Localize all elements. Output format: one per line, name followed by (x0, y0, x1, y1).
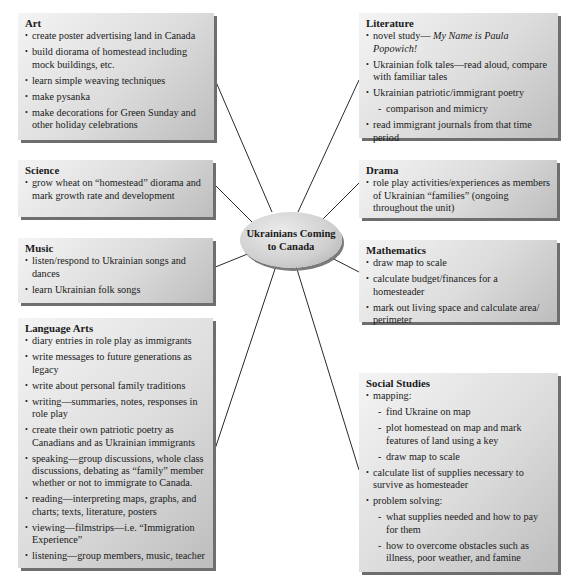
drama-title: Drama (366, 164, 551, 176)
list-item: viewing—filmstrips—i.e. “Immigration Exp… (25, 522, 207, 547)
list-item: mapping: (366, 390, 552, 402)
list-item: Ukrainian folk tales—read aloud, compare… (366, 59, 552, 84)
list-item: writing—summaries, notes, responses in r… (25, 396, 207, 421)
list-item: write about personal family traditions (25, 380, 207, 392)
list-item: draw map to scale (366, 257, 551, 269)
sub-list-item: comparison and mimicry (366, 103, 552, 115)
social-studies-box: Social Studies mapping: find Ukraine on … (359, 373, 558, 572)
social-studies-title: Social Studies (366, 377, 552, 389)
connector-music (213, 253, 250, 268)
science-box: Science grow wheat on “homestead” dioram… (18, 160, 213, 217)
language-arts-title: Language Arts (25, 322, 207, 334)
sub-list-item: draw map to scale (366, 451, 552, 463)
sub-list-item: how to overcome obstacles such as illnes… (366, 540, 552, 565)
list-item: Ukrainian patriotic/immigrant poetry (366, 87, 552, 99)
novel-study-prefix: novel study— (373, 30, 433, 41)
sub-list-item: what supplies needed and how to pay for … (366, 511, 552, 536)
list-item: build diorama of homestead including moc… (25, 46, 208, 71)
connector-social-studies (296, 266, 359, 470)
list-item: learn simple weaving techniques (25, 75, 208, 87)
list-item: listening—group members, music, teacher (25, 550, 207, 562)
list-item: speaking—group discussions, whole class … (25, 453, 207, 490)
list-item: grow wheat on “homestead” diorama and ma… (25, 177, 207, 202)
central-topic: Ukrainians Coming to Canada (240, 212, 342, 268)
list-item: mark out living space and calculate area… (366, 302, 551, 327)
list-item: novel study— My Name is Paula Popowich! (366, 30, 552, 55)
sub-list-item: plot homestead on map and mark features … (366, 422, 552, 447)
drama-box: Drama role play activities/experiences a… (359, 160, 557, 218)
list-item: reading—interpreting maps, graphs, and c… (25, 493, 207, 518)
list-item: problem solving: (366, 495, 552, 507)
connector-drama (322, 183, 359, 220)
music-title: Music (25, 242, 207, 254)
sub-list-item: find Ukraine on map (366, 406, 552, 418)
art-box: Art create poster advertising land in Ca… (18, 13, 214, 140)
science-title: Science (25, 164, 207, 176)
list-item: create poster advertising land in Canada (25, 30, 208, 42)
literature-box: Literature novel study— My Name is Paula… (359, 13, 558, 138)
list-item: role play activities/experiences as memb… (366, 177, 551, 214)
connector-language-arts (213, 266, 276, 455)
literature-title: Literature (366, 17, 552, 29)
list-item: calculate budget/finances for a homestea… (366, 273, 551, 298)
list-item: calculate list of supplies necessary to … (366, 467, 552, 492)
music-box: Music listen/respond to Ukrainian songs … (18, 238, 213, 303)
list-item: make decorations for Green Sunday and ot… (25, 107, 208, 132)
list-item: read immigrant journals from that time p… (366, 119, 552, 144)
art-title: Art (25, 17, 208, 29)
list-item: learn Ukrainian folk songs (25, 284, 207, 296)
list-item: diary entries in role play as immigrants (25, 335, 207, 347)
list-item: make pysanka (25, 91, 208, 103)
list-item: listen/respond to Ukrainian songs and da… (25, 255, 207, 280)
language-arts-box: Language Arts diary entries in role play… (18, 318, 213, 568)
connector-science (213, 183, 252, 222)
mathematics-box: Mathematics draw map to scale calculate … (359, 240, 557, 322)
list-item: write messages to future generations as … (25, 351, 207, 376)
central-topic-title: Ukrainians Coming to Canada (246, 227, 336, 253)
list-item: create their own patriotic poetry as Can… (25, 424, 207, 449)
mathematics-title: Mathematics (366, 244, 551, 256)
